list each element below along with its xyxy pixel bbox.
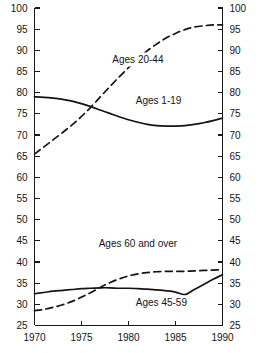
series-label-ages-60-and-over: Ages 60 and over: [99, 238, 178, 249]
y-tick-label-left: 25: [16, 320, 28, 331]
y-tick-label-right: 45: [230, 235, 242, 246]
y-axis-left-labels: 253035404550556065707580859095100: [11, 3, 28, 332]
series-line-ages-1-19: [35, 97, 223, 126]
x-tick-label: 1975: [70, 332, 93, 343]
line-chart: 253035404550556065707580859095100 253035…: [0, 0, 264, 353]
y-tick-label-left: 50: [16, 214, 28, 225]
y-tick-label-left: 80: [16, 87, 28, 98]
x-axis-labels: 19701975198019851990: [23, 332, 234, 343]
y-tick-label-right: 95: [230, 24, 242, 35]
y-tick-label-left: 30: [16, 299, 28, 310]
series-label-ages-20-44: Ages 20-44: [112, 54, 164, 65]
x-tick-label: 1985: [164, 332, 187, 343]
x-tick-label: 1980: [117, 332, 140, 343]
chart-container: 253035404550556065707580859095100 253035…: [0, 0, 264, 353]
y-tick-label-right: 90: [230, 45, 242, 56]
y-axis-right-ticks: [218, 8, 223, 326]
x-axis-ticks: [82, 321, 176, 326]
y-tick-label-left: 95: [16, 24, 28, 35]
y-tick-label-left: 90: [16, 45, 28, 56]
y-tick-label-left: 75: [16, 108, 28, 119]
series-label-ages-1-19: Ages 1-19: [136, 95, 182, 106]
y-tick-label-left: 35: [16, 278, 28, 289]
y-tick-label-left: 55: [16, 193, 28, 204]
x-tick-label: 1970: [23, 332, 46, 343]
y-tick-label-left: 45: [16, 235, 28, 246]
chart-series-group: [35, 25, 223, 311]
y-tick-label-left: 100: [11, 3, 28, 14]
y-tick-label-right: 50: [230, 214, 242, 225]
y-tick-label-right: 25: [230, 320, 242, 331]
series-label-ages-45-59: Ages 45-59: [136, 297, 188, 308]
y-tick-label-right: 70: [230, 130, 242, 141]
y-tick-label-left: 85: [16, 66, 28, 77]
y-tick-label-right: 100: [230, 3, 247, 14]
x-tick-label: 1990: [211, 332, 234, 343]
y-tick-label-right: 80: [230, 87, 242, 98]
y-tick-label-left: 40: [16, 257, 28, 268]
y-tick-label-right: 85: [230, 66, 242, 77]
y-tick-label-left: 70: [16, 130, 28, 141]
y-tick-label-right: 30: [230, 299, 242, 310]
y-tick-label-left: 65: [16, 151, 28, 162]
y-tick-label-right: 75: [230, 108, 242, 119]
y-tick-label-right: 55: [230, 193, 242, 204]
y-tick-label-right: 65: [230, 151, 242, 162]
series-line-ages-20-44: [35, 25, 223, 154]
y-tick-label-right: 35: [230, 278, 242, 289]
y-axis-right-labels: 253035404550556065707580859095100: [230, 3, 247, 332]
series-line-ages-45-59: [35, 275, 223, 295]
y-tick-label-left: 60: [16, 172, 28, 183]
y-tick-label-right: 40: [230, 257, 242, 268]
y-axis-left-ticks: [35, 8, 40, 326]
y-tick-label-right: 60: [230, 172, 242, 183]
